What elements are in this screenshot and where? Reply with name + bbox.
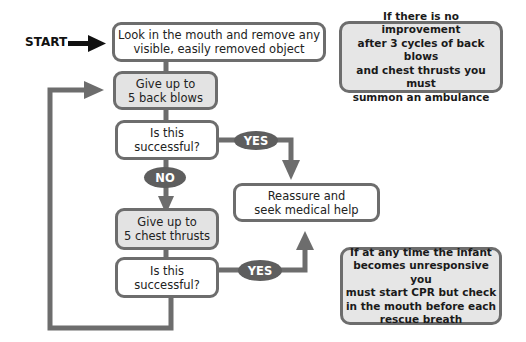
yes-label-1-text: YES <box>244 134 268 148</box>
successful-question-2: Is this successful? <box>115 257 219 298</box>
ambulance-note-text: If there is no improvement after 3 cycle… <box>342 10 500 105</box>
back-blows-text: Give up to 5 back blows <box>128 77 203 105</box>
successful-question-1: Is this successful? <box>115 120 219 160</box>
yes-label-2: YES <box>238 260 282 281</box>
look-in-mouth-text: Look in the mouth and remove any visible… <box>118 28 320 56</box>
chest-thrusts-text: Give up to 5 chest thrusts <box>124 215 210 243</box>
look-in-mouth-step: Look in the mouth and remove any visible… <box>112 22 326 62</box>
successful-question-1-text: Is this successful? <box>134 126 200 154</box>
reassure-step: Reassure and seek medical help <box>233 183 380 222</box>
chest-thrusts-step: Give up to 5 chest thrusts <box>115 208 219 250</box>
yes-label-2-text: YES <box>248 264 272 278</box>
start-label: START <box>25 35 67 49</box>
cpr-note: If at any time the infant becomes unresp… <box>340 247 502 325</box>
successful-question-2-text: Is this successful? <box>134 264 200 292</box>
ambulance-note: If there is no improvement after 3 cycle… <box>339 21 503 93</box>
no-label-text: NO <box>155 171 174 185</box>
yes-label-1: YES <box>234 131 278 150</box>
no-label: NO <box>144 167 186 188</box>
reassure-text: Reassure and seek medical help <box>254 189 358 217</box>
cpr-note-text: If at any time the infant becomes unresp… <box>343 246 499 327</box>
back-blows-step: Give up to 5 back blows <box>113 71 218 110</box>
